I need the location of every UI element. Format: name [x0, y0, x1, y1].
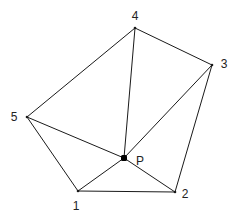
vertex-3-label: 3 — [221, 57, 228, 71]
polygon-edge-3-4 — [135, 28, 212, 65]
vertex-1-dot — [77, 190, 80, 193]
labels-group: 12345P — [11, 9, 228, 213]
point-p-dot — [121, 155, 127, 161]
diagram-canvas: 12345P — [0, 0, 239, 216]
vertex-4-dot — [134, 27, 137, 30]
point-p-label: P — [136, 154, 144, 168]
vertex-2-label: 2 — [182, 187, 189, 201]
vertex-5-label: 5 — [11, 110, 18, 124]
spoke-edge-P-1 — [78, 158, 124, 191]
vertex-1-label: 1 — [73, 199, 80, 213]
spoke-edge-P-2 — [124, 158, 175, 192]
spoke-edge-P-4 — [124, 28, 135, 158]
vertex-2-dot — [174, 191, 177, 194]
polygon-edge-4-5 — [27, 28, 135, 117]
polygon-edge-1-2 — [78, 191, 175, 192]
edges-group — [27, 28, 212, 192]
vertex-3-dot — [211, 64, 214, 67]
vertex-4-label: 4 — [132, 9, 139, 23]
vertex-5-dot — [26, 116, 29, 119]
